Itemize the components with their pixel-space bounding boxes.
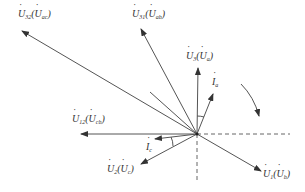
label-U1: U1(Ub)	[263, 169, 290, 180]
label-U31-alt-sub: ab	[156, 14, 162, 20]
angle-arc-Ic	[171, 137, 173, 146]
label-Ia-sub: a	[215, 82, 218, 88]
label-U12-sub: 12	[79, 119, 85, 125]
label-U32-alt-sub: ac	[42, 14, 48, 20]
label-U32-sub: 32	[25, 14, 31, 20]
label-U2-sub: 2	[114, 169, 117, 175]
label-U32: U32(Uac)	[18, 9, 51, 20]
label-U31-sub: 31	[139, 14, 145, 20]
label-Ic-sub: c	[149, 147, 152, 153]
label-U12-alt-sub: cb	[96, 119, 102, 125]
rotation-direction-arrow	[241, 84, 259, 116]
label-U31: U31(Uab)	[132, 9, 165, 20]
label-U12-alt: U	[89, 114, 96, 124]
label-U12: U12(Ucb)	[72, 114, 105, 125]
label-U2-alt-sub: c	[128, 169, 131, 175]
label-U3-sub: 3	[193, 56, 196, 62]
label-U2-alt: U	[121, 164, 128, 174]
label-U1-alt-sub: b	[284, 174, 287, 180]
phasor-Ia	[197, 94, 213, 134]
label-U31-main: U	[132, 9, 139, 19]
angle-arc-Ia	[197, 116, 204, 117]
label-Ia: Ia	[212, 77, 218, 88]
phasor-Ic	[155, 134, 197, 139]
label-U3-alt: U	[200, 51, 207, 61]
phasor-U32	[22, 31, 197, 134]
label-U3-alt-sub: a	[207, 56, 210, 62]
label-U1-sub: 1	[270, 174, 273, 180]
label-U32-main: U	[18, 9, 25, 19]
phasor-U3	[197, 68, 198, 134]
label-U32-alt: U	[35, 9, 42, 19]
label-U2-main: U	[107, 164, 114, 174]
label-U12-main: U	[72, 114, 79, 124]
label-U31-alt: U	[149, 9, 156, 19]
label-U3-main: U	[186, 51, 193, 61]
label-Ia-main: I	[212, 77, 215, 87]
label-U2: U2(Uc)	[107, 164, 134, 175]
phasor-U1	[197, 134, 261, 171]
label-Ic-main: I	[146, 142, 149, 152]
label-U1-alt: U	[277, 169, 284, 179]
label-Ic: Ic	[146, 142, 152, 153]
origin-point	[195, 132, 198, 135]
phasor-extension	[150, 92, 197, 134]
label-U1-main: U	[263, 169, 270, 179]
label-U3: U3(Ua)	[186, 51, 213, 62]
phasor-diagram	[0, 0, 305, 192]
